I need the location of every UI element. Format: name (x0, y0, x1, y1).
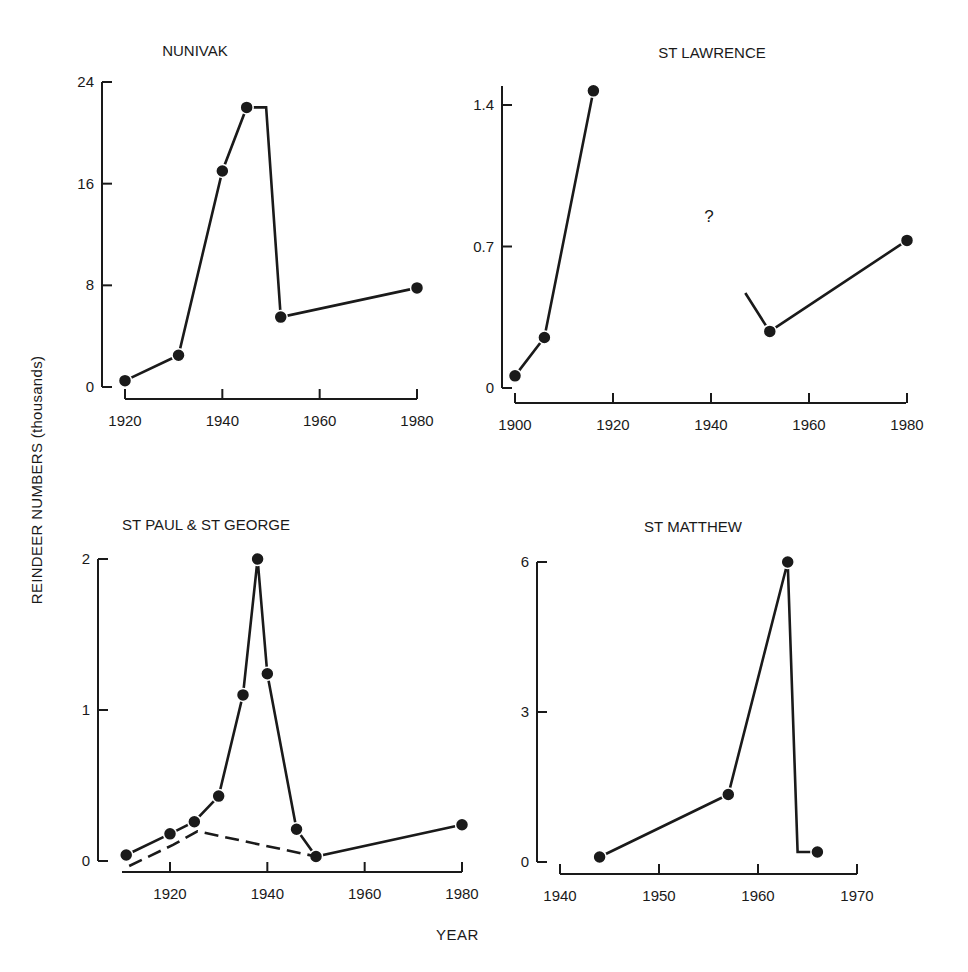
x-tick-label: 1900 (498, 416, 531, 433)
series-line (125, 107, 417, 380)
x-tick-label: 1980 (890, 416, 923, 433)
panel-title: NUNIVAK (162, 42, 228, 59)
x-tick-label: 1940 (694, 416, 727, 433)
series-line (515, 91, 593, 376)
x-tick-label: 1980 (400, 412, 433, 429)
data-point (811, 846, 824, 859)
x-tick-label: 1960 (792, 416, 825, 433)
y-tick-label: 0 (82, 852, 90, 869)
data-point (781, 556, 794, 569)
figure: NUNIVAK0816241920194019601980ST LAWRENCE… (0, 0, 968, 972)
x-tick-label: 1970 (840, 887, 873, 904)
x-tick-label: 1920 (153, 885, 186, 902)
series-line (600, 562, 818, 857)
series-line (745, 240, 907, 331)
data-point (212, 790, 225, 803)
panel-st-lawrence: ST LAWRENCE00.71.419001920194019601980? (473, 44, 924, 433)
data-point (261, 667, 274, 680)
data-point (593, 851, 606, 864)
x-tick-label: 1940 (251, 885, 284, 902)
data-point (722, 788, 735, 801)
x-axis-label: YEAR (436, 926, 479, 943)
x-tick-label: 1920 (596, 416, 629, 433)
y-tick-label: 3 (521, 703, 529, 720)
x-tick-label: 1960 (303, 412, 336, 429)
question-mark-annotation: ? (704, 207, 713, 226)
series-line (126, 559, 462, 857)
data-point (763, 325, 776, 338)
dashed-series-line (129, 831, 316, 866)
panel-nunivak: NUNIVAK0816241920194019601980 (77, 42, 433, 429)
data-point (240, 101, 253, 114)
panel-st-matthew: ST MATTHEW0361940195019601970 (521, 518, 874, 904)
y-axis-label: REINDEER NUMBERS (thousands) (28, 310, 45, 650)
data-point (237, 688, 250, 701)
data-point (587, 84, 600, 97)
y-tick-label: 0 (521, 853, 529, 870)
y-tick-label: 8 (86, 276, 94, 293)
panel-title: ST LAWRENCE (658, 44, 766, 61)
data-point (538, 331, 551, 344)
data-point (290, 823, 303, 836)
data-point (251, 553, 264, 566)
panel-title: ST PAUL & ST GEORGE (122, 516, 290, 533)
data-point (216, 164, 229, 177)
panel-title: ST MATTHEW (644, 518, 743, 535)
data-point (274, 311, 287, 324)
y-tick-label: 0.7 (473, 238, 494, 255)
data-point (901, 234, 914, 247)
x-tick-label: 1940 (206, 412, 239, 429)
y-tick-label: 16 (77, 175, 94, 192)
y-tick-label: 0 (86, 378, 94, 395)
y-tick-label: 1.4 (473, 96, 494, 113)
x-tick-label: 1960 (348, 885, 381, 902)
chart-canvas: NUNIVAK0816241920194019601980ST LAWRENCE… (0, 0, 968, 972)
panel-st-paul-st-george: ST PAUL & ST GEORGE0121920194019601980 (82, 516, 479, 902)
x-tick-label: 1940 (543, 887, 576, 904)
data-point (188, 815, 201, 828)
data-point (164, 827, 177, 840)
y-tick-label: 24 (77, 73, 94, 90)
x-tick-label: 1960 (741, 887, 774, 904)
y-tick-label: 0 (486, 379, 494, 396)
y-tick-label: 6 (521, 553, 529, 570)
data-point (120, 848, 133, 861)
data-point (456, 818, 469, 831)
data-point (411, 281, 424, 294)
x-tick-label: 1950 (642, 887, 675, 904)
y-tick-label: 1 (82, 701, 90, 718)
x-tick-label: 1920 (108, 412, 141, 429)
y-tick-label: 2 (82, 550, 90, 567)
x-tick-label: 1980 (445, 885, 478, 902)
data-point (119, 374, 132, 387)
data-point (172, 349, 185, 362)
data-point (509, 369, 522, 382)
